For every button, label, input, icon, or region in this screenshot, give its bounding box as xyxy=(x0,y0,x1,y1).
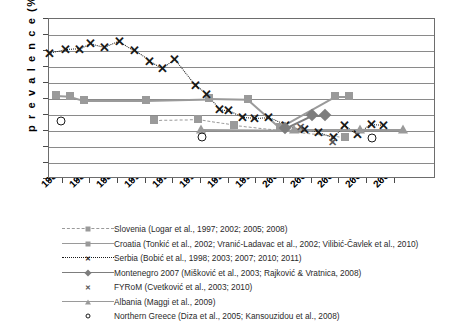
series-line-segment xyxy=(84,100,146,102)
data-point: ✕ xyxy=(169,55,180,64)
legend-label: FYRoM (Cvetković et al., 2003; 2010) xyxy=(114,282,252,292)
data-point: ✕ xyxy=(378,120,389,129)
circle-marker-key xyxy=(62,310,114,322)
x-marker-key: ✕ xyxy=(62,281,114,293)
data-point: ✕ xyxy=(339,120,350,129)
data-point: ✕ xyxy=(74,44,85,53)
gridline xyxy=(49,83,434,84)
data-point xyxy=(289,125,299,134)
x-tick-mark-minor xyxy=(228,178,229,183)
data-point: ✕ xyxy=(223,106,234,115)
y-axis-title: p r e v a l e n c e (%) xyxy=(25,0,37,136)
plot-area: ✕✕✕✕✕✕✕✕✕✕✕✕✕✕✕✕✕✕✕✕✕✕✕✕✕✕✕ xyxy=(48,18,435,178)
x-tick-mark-minor xyxy=(283,178,284,183)
data-point xyxy=(319,109,332,122)
legend-item[interactable]: Northern Greece (Diza et al., 2005; Kans… xyxy=(62,309,450,324)
data-point xyxy=(244,95,252,103)
data-point: ✕ xyxy=(60,45,71,54)
solid-diamond-key xyxy=(62,267,114,279)
legend-item[interactable]: Slovenia (Logar et al., 1997; 2002; 2005… xyxy=(62,222,450,237)
dotted-x-key: ✕ xyxy=(62,252,114,264)
gridline xyxy=(49,67,434,68)
x-tick-mark-minor xyxy=(172,178,173,183)
data-point: ✕ xyxy=(99,43,110,52)
solid-square-key xyxy=(62,238,114,250)
data-point: ✕ xyxy=(263,113,274,122)
data-point: ✕ xyxy=(313,127,324,136)
chart-legend: Slovenia (Logar et al., 1997; 2002; 2005… xyxy=(62,222,450,324)
data-point: ✕ xyxy=(44,49,55,58)
data-point xyxy=(341,133,349,141)
data-point: ✕ xyxy=(201,90,212,99)
x-tick-mark-minor xyxy=(62,178,63,183)
x-tick-mark-minor xyxy=(117,178,118,183)
data-point: ✕ xyxy=(249,114,260,123)
data-point xyxy=(57,116,66,125)
series-line-segment xyxy=(154,119,198,121)
gridline xyxy=(49,147,434,148)
x-tick-mark-minor xyxy=(255,178,256,183)
legend-marker: ✕ xyxy=(85,255,91,262)
legend-item[interactable]: ✕FYRoM (Cvetković et al., 2003; 2010) xyxy=(62,280,450,295)
data-point: ✕ xyxy=(237,113,248,122)
data-point xyxy=(194,115,202,123)
legend-label: Northern Greece (Diza et al., 2005; Kans… xyxy=(114,311,340,321)
data-point xyxy=(80,96,88,104)
data-point xyxy=(355,125,365,134)
legend-marker xyxy=(85,299,91,304)
legend-label: Serbia (Bobić et al., 1998; 2003; 2007; … xyxy=(114,253,302,263)
legend-label: Slovenia (Logar et al., 1997; 2002; 2005… xyxy=(114,224,287,234)
data-point: ✕ xyxy=(85,39,96,48)
gridline xyxy=(49,35,434,36)
legend-item[interactable]: Albania (Maggi et al., 2009) xyxy=(62,295,450,310)
data-point: ✕ xyxy=(157,63,168,72)
legend-marker xyxy=(86,241,91,246)
data-point xyxy=(142,96,150,104)
legend-marker: ✕ xyxy=(85,284,91,291)
legend-item[interactable]: Croatia (Tonkić et al., 2002; Vranić-Lad… xyxy=(62,237,450,252)
legend-marker xyxy=(86,314,91,319)
legend-item[interactable]: Montenegro 2007 (Mišković et al., 2003; … xyxy=(62,266,450,281)
legend-marker xyxy=(84,269,91,276)
x-tick-mark-minor xyxy=(311,178,312,183)
data-point xyxy=(368,134,377,143)
x-tick-mark-minor xyxy=(366,178,367,183)
legend-label: Montenegro 2007 (Mišković et al., 2003; … xyxy=(114,268,361,278)
x-tick-mark-minor xyxy=(338,178,339,183)
x-tick-mark-minor xyxy=(200,178,201,183)
x-tick-mark-minor xyxy=(89,178,90,183)
legend-item[interactable]: ✕Serbia (Bobić et al., 1998; 2003; 2007;… xyxy=(62,251,450,266)
data-point xyxy=(198,132,207,141)
data-point xyxy=(331,92,339,100)
solid-triangle-key xyxy=(62,296,114,308)
legend-marker xyxy=(86,227,91,232)
data-point: ✕ xyxy=(328,138,337,147)
chart-figure: p r e v a l e n c e (%) 1009080706050403… xyxy=(0,0,451,327)
data-point: ✕ xyxy=(190,81,201,90)
legend-label: Albania (Maggi et al., 2009) xyxy=(114,297,215,307)
data-point: ✕ xyxy=(366,119,377,128)
data-point xyxy=(150,116,158,124)
legend-label: Croatia (Tonkić et al., 2002; Vranić-Lad… xyxy=(114,239,418,249)
x-tick-mark-minor xyxy=(145,178,146,183)
data-point xyxy=(52,91,60,99)
dashed-square-key xyxy=(62,223,114,235)
data-point: ✕ xyxy=(114,36,125,45)
data-point: ✕ xyxy=(129,46,140,55)
gridline xyxy=(49,163,434,164)
data-point xyxy=(398,125,408,134)
x-tick-mark-minor xyxy=(394,178,395,183)
data-point xyxy=(66,92,74,100)
data-point: ✕ xyxy=(144,56,155,65)
data-point xyxy=(345,92,353,100)
